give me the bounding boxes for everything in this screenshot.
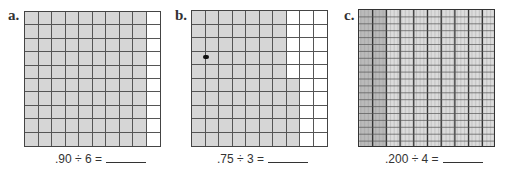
problem-c: c. .200 ÷ 4 =	[340, 0, 511, 176]
grid-cell	[273, 106, 287, 120]
answer-blank[interactable]	[106, 152, 146, 163]
grid-cell	[93, 133, 107, 146]
grid-cell	[52, 39, 66, 52]
hundred-grid	[191, 10, 328, 147]
grid-cell	[133, 52, 147, 65]
grid-cell	[147, 119, 161, 132]
grid-cell	[273, 11, 287, 25]
grid-cell	[260, 119, 274, 133]
grid-cell	[246, 52, 260, 66]
grid-cell	[93, 25, 107, 38]
grid-cell	[287, 65, 301, 79]
equation: .75 ÷ 3 =	[217, 152, 308, 166]
ink-mark	[203, 55, 209, 59]
grid-cell	[287, 38, 301, 52]
grid-cell	[93, 79, 107, 92]
grid-cell	[25, 25, 39, 38]
equation: .90 ÷ 6 =	[55, 152, 146, 166]
grid-cell	[300, 25, 314, 39]
grid-cell	[246, 11, 260, 25]
answer-blank[interactable]	[268, 152, 308, 163]
grid-cell	[120, 39, 134, 52]
grid-cell	[133, 106, 147, 119]
grid-cell	[192, 25, 206, 39]
grid-cell	[273, 38, 287, 52]
grid-cell	[246, 38, 260, 52]
grid-cell	[233, 38, 247, 52]
grid-cell	[79, 106, 93, 119]
problem-b: b. .75 ÷ 3 =	[170, 0, 340, 176]
grid-cell	[314, 133, 328, 147]
thousand-grid-lines	[359, 10, 495, 147]
grid-cell	[106, 52, 120, 65]
equation-text: .75 ÷ 3 =	[217, 152, 264, 166]
grid-cell	[133, 66, 147, 79]
problem-letter: a.	[8, 7, 19, 24]
grid-cell	[120, 79, 134, 92]
grid-cell	[287, 52, 301, 66]
grid-cell	[233, 25, 247, 39]
grid-cell	[93, 52, 107, 65]
grid-cell	[300, 119, 314, 133]
grid-cell	[192, 119, 206, 133]
grid-cell	[79, 39, 93, 52]
grid-cell	[233, 65, 247, 79]
grid-cell	[287, 133, 301, 147]
grid-cell	[147, 79, 161, 92]
grid-cell	[39, 133, 53, 146]
grid-cell	[52, 119, 66, 132]
grid-cell	[233, 133, 247, 147]
grid-cell	[314, 38, 328, 52]
grid-cell	[39, 25, 53, 38]
grid-cell	[273, 119, 287, 133]
grid-cell	[147, 52, 161, 65]
grid-cell	[206, 79, 220, 93]
grid-cell	[246, 65, 260, 79]
grid-cell	[219, 119, 233, 133]
grid-cell	[66, 79, 80, 92]
hundred-grid	[24, 11, 161, 147]
grid-cell	[39, 119, 53, 132]
grid-cell	[52, 92, 66, 105]
grid-cell	[219, 52, 233, 66]
grid-cell	[246, 119, 260, 133]
grid-cell	[192, 65, 206, 79]
grid-cell	[233, 106, 247, 120]
answer-blank[interactable]	[443, 152, 483, 163]
grid-cell	[147, 92, 161, 105]
grid-cell	[52, 25, 66, 38]
grid-cell	[314, 25, 328, 39]
grid-cell	[106, 119, 120, 132]
grid-cell	[219, 92, 233, 106]
grid-cell	[52, 12, 66, 25]
grid-cell	[147, 39, 161, 52]
grid-cell	[133, 25, 147, 38]
grid-cell	[192, 11, 206, 25]
grid-cell	[120, 12, 134, 25]
grid-cell	[314, 79, 328, 93]
grid-cell	[314, 92, 328, 106]
grid-cell	[147, 106, 161, 119]
grid-cell	[106, 79, 120, 92]
grid-cell	[314, 52, 328, 66]
grid-cell	[25, 133, 39, 146]
grid-cell	[120, 119, 134, 132]
grid-cell	[273, 79, 287, 93]
grid-cell	[106, 133, 120, 146]
grid-cell	[133, 12, 147, 25]
grid-cell	[79, 133, 93, 146]
grid-cell	[314, 106, 328, 120]
grid-cell	[233, 79, 247, 93]
grid-cell	[147, 133, 161, 146]
grid-cell	[219, 106, 233, 120]
grid-cell	[79, 12, 93, 25]
grid-cell	[147, 25, 161, 38]
grid-cell	[273, 92, 287, 106]
grid-cell	[300, 106, 314, 120]
grid-cell	[93, 92, 107, 105]
grid-cell	[219, 79, 233, 93]
grid-cell	[206, 11, 220, 25]
grid-cell	[260, 65, 274, 79]
grid-cell	[287, 79, 301, 93]
grid-cell	[93, 119, 107, 132]
